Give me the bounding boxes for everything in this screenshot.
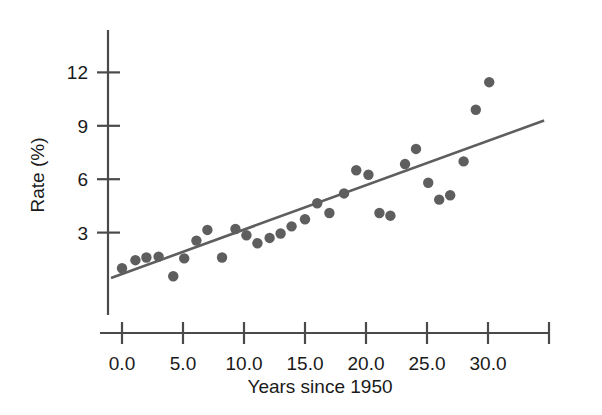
data-point bbox=[168, 271, 178, 281]
data-point bbox=[484, 77, 494, 87]
data-point bbox=[423, 178, 433, 188]
data-point bbox=[202, 225, 212, 235]
x-tick-label: 10.0 bbox=[226, 353, 263, 374]
data-point bbox=[374, 208, 384, 218]
data-point bbox=[241, 230, 251, 240]
y-tick-label: 9 bbox=[77, 116, 88, 137]
data-point bbox=[324, 208, 334, 218]
data-point bbox=[286, 221, 296, 231]
data-point bbox=[312, 198, 322, 208]
data-point bbox=[264, 233, 274, 243]
x-tick-label: 20.0 bbox=[348, 353, 385, 374]
data-point bbox=[300, 214, 310, 224]
y-axis-title: Rate (%) bbox=[27, 138, 48, 213]
x-tick-label: 0.0 bbox=[109, 353, 135, 374]
data-point bbox=[363, 170, 373, 180]
data-point bbox=[153, 251, 163, 261]
data-point bbox=[141, 252, 151, 262]
y-tick-label: 12 bbox=[67, 62, 88, 83]
data-point bbox=[191, 235, 201, 245]
data-point bbox=[458, 156, 468, 166]
data-point bbox=[400, 159, 410, 169]
data-point bbox=[117, 263, 127, 273]
x-tick-label: 5.0 bbox=[170, 353, 196, 374]
data-point bbox=[130, 255, 140, 265]
data-point bbox=[471, 105, 481, 115]
data-point bbox=[252, 238, 262, 248]
data-point bbox=[411, 144, 421, 154]
data-point bbox=[434, 194, 444, 204]
data-point bbox=[351, 165, 361, 175]
data-point bbox=[339, 188, 349, 198]
x-axis-title: Years since 1950 bbox=[247, 376, 392, 397]
data-point bbox=[179, 253, 189, 263]
y-tick-label: 3 bbox=[77, 223, 88, 244]
data-point bbox=[275, 228, 285, 238]
data-point bbox=[385, 210, 395, 220]
y-tick-label: 6 bbox=[77, 169, 88, 190]
x-tick-label: 30.0 bbox=[470, 353, 507, 374]
data-point bbox=[230, 224, 240, 234]
data-point bbox=[217, 252, 227, 262]
x-tick-label: 15.0 bbox=[287, 353, 324, 374]
x-tick-label: 25.0 bbox=[409, 353, 446, 374]
scatter-chart: 36912 0.05.010.015.020.025.030.0 Years s… bbox=[0, 0, 602, 415]
data-point bbox=[445, 190, 455, 200]
